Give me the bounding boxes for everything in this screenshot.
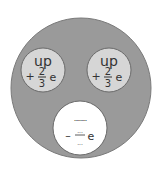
charge-sign: + xyxy=(91,70,100,83)
proton-diagram: up + 2 3 e up + 2 3 e .......... – ... .… xyxy=(0,0,158,174)
quark-name-blank: .......... xyxy=(74,115,87,123)
charge-sign: + xyxy=(25,70,34,83)
charge-numerator-blank: ... xyxy=(77,127,83,134)
charge-denominator-blank: ... xyxy=(77,139,83,146)
charge-denominator: 3 xyxy=(105,78,111,89)
charge-unit: e xyxy=(116,71,123,84)
charge-numerator: 2 xyxy=(39,66,45,77)
quark-up-right: up + 2 3 e xyxy=(87,48,131,92)
charge-sign: – xyxy=(65,129,71,142)
charge-unit: e xyxy=(50,71,57,84)
charge-unit: e xyxy=(88,130,95,143)
charge-denominator: 3 xyxy=(39,78,45,89)
quark-up-left: up + 2 3 e xyxy=(21,48,65,92)
charge-numerator: 2 xyxy=(105,66,111,77)
quark-blank-bottom: .......... – ... ... e xyxy=(53,101,107,155)
